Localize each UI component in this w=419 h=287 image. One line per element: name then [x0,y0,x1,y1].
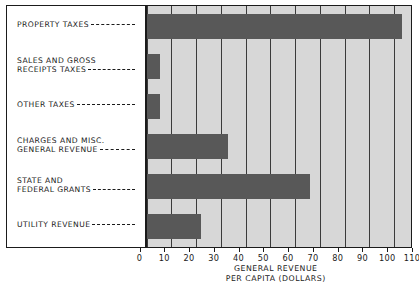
bar [147,94,161,119]
category-label: OTHER TAXES [17,100,143,109]
gridline [171,6,172,247]
x-axis-tick-label: 110 [404,253,419,263]
x-axis-tick-label: 80 [332,253,343,263]
category-label-line: OTHER TAXES [17,100,143,109]
plot-area [147,6,412,247]
category-label: UTILITY REVENUE [17,220,143,229]
x-axis-tick [263,248,264,252]
category-label-text: CHARGES AND MISC. [17,136,105,145]
x-axis-tick-label: 100 [379,253,396,263]
x-axis-tick-label: 0 [137,253,143,263]
leader-line [100,149,135,150]
category-label: STATE ANDFEDERAL GRANTS [17,176,143,194]
x-axis-tick-label: 70 [307,253,318,263]
leader-line [92,224,135,225]
figure: PROPERTY TAXESSALES AND GROSSRECEIPTS TA… [0,0,419,287]
x-axis-tick-label: 50 [258,253,269,263]
category-label-text: UTILITY REVENUE [17,220,90,229]
category-label: PROPERTY TAXES [17,20,143,29]
category-label-panel: PROPERTY TAXESSALES AND GROSSRECEIPTS TA… [7,6,145,247]
x-axis-tick [338,248,339,252]
x-axis-tick [387,248,388,252]
x-axis-tick-label: 20 [184,253,195,263]
category-label-text: PROPERTY TAXES [17,20,89,29]
category-label-line: CHARGES AND MISC. [17,136,143,145]
gridline [246,6,247,247]
category-label-line: PROPERTY TAXES [17,20,143,29]
x-axis-tick [189,248,190,252]
category-label-line: FEDERAL GRANTS [17,185,143,194]
x-axis-tick-label: 30 [208,253,219,263]
leader-line [77,104,135,105]
bar [147,54,161,79]
x-axis-tick [214,248,215,252]
x-axis-tick [140,248,141,252]
gridline [320,6,321,247]
bar [147,174,311,199]
category-label-text: OTHER TAXES [17,100,75,109]
gridline [221,6,222,247]
x-axis-tick-label: 40 [233,253,244,263]
category-label-text: GENERAL REVENUE [17,145,98,154]
category-label-line: GENERAL REVENUE [17,145,143,154]
x-axis-tick [412,248,413,252]
category-label: CHARGES AND MISC.GENERAL REVENUE [17,136,143,154]
category-label-line: SALES AND GROSS [17,56,143,65]
x-axis-tick [239,248,240,252]
x-axis-tick-label: 60 [283,253,294,263]
category-label-line: RECEIPTS TAXES [17,65,143,74]
category-label-text: SALES AND GROSS [17,56,96,65]
x-axis-title-line-2: PER CAPITA (DOLLARS) [140,274,413,284]
x-axis-tick [164,248,165,252]
category-label-line: STATE AND [17,176,143,185]
chart-frame: PROPERTY TAXESSALES AND GROSSRECEIPTS TA… [6,5,412,248]
x-axis-title-line-1: GENERAL REVENUE [140,264,413,274]
category-label-text: RECEIPTS TAXES [17,65,86,74]
gridline [147,6,148,247]
x-axis-tick-label: 10 [159,253,170,263]
gridline [196,6,197,247]
x-axis-tick [288,248,289,252]
x-axis-tick [362,248,363,252]
bar [147,134,229,159]
gridline [394,6,395,247]
gridline [345,6,346,247]
x-axis-tick [313,248,314,252]
bar [147,214,202,239]
gridline [369,6,370,247]
category-label: SALES AND GROSSRECEIPTS TAXES [17,56,143,74]
category-label-text: STATE AND [17,176,63,185]
bar [147,14,402,39]
x-axis-tick-label: 90 [357,253,368,263]
gridline [295,6,296,247]
leader-line [91,24,135,25]
leader-line [88,69,135,70]
leader-line [93,189,135,190]
x-axis-title: GENERAL REVENUE PER CAPITA (DOLLARS) [140,264,413,284]
gridline [270,6,271,247]
category-label-line: UTILITY REVENUE [17,220,143,229]
category-label-text: FEDERAL GRANTS [17,185,91,194]
